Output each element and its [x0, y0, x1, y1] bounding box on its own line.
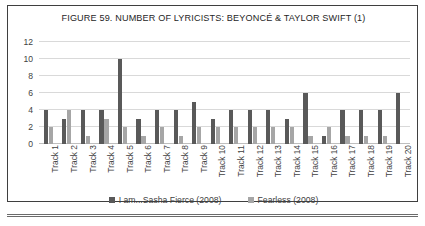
- bar: [229, 110, 233, 144]
- bar-group: [192, 42, 201, 144]
- bar: [197, 127, 201, 144]
- y-axis-tick-label: 10: [23, 55, 33, 64]
- y-axis-tick-label: 8: [28, 72, 33, 81]
- bar-group: [285, 42, 294, 144]
- x-axis-tick-label: Track 8: [181, 145, 189, 173]
- legend-item[interactable]: Fearless (2008): [248, 195, 319, 205]
- chart-title: FIGURE 59. NUMBER OF LYRICISTS: BEYONCÉ …: [8, 13, 419, 23]
- bar-group: [81, 42, 90, 144]
- bar-group: [396, 42, 405, 144]
- legend-swatch-fearless: [248, 197, 254, 203]
- bar-group: [229, 42, 238, 144]
- bar: [62, 119, 66, 145]
- bar: [271, 127, 275, 144]
- bar: [345, 136, 349, 145]
- bar: [216, 127, 220, 144]
- bar-group: [266, 42, 275, 144]
- bar: [340, 110, 344, 144]
- y-axis-tick-labels: 024681012: [8, 42, 36, 144]
- chart-legend: I am...Sasha Fierce (2008)Fearless (2008…: [8, 195, 419, 205]
- x-axis-tick-label: Track 2: [70, 145, 78, 173]
- bar-group: [340, 42, 349, 144]
- y-axis-tick-label: 6: [28, 89, 33, 98]
- x-axis-tick-label: Track 11: [237, 145, 245, 177]
- bar-group: [378, 42, 387, 144]
- x-axis-tick-labels: Track 1Track 2Track 3Track 4Track 5Track…: [39, 145, 410, 193]
- y-axis-tick-label: 2: [28, 123, 33, 132]
- bar-group: [99, 42, 108, 144]
- figure-frame: FIGURE 59. NUMBER OF LYRICISTS: BEYONCÉ …: [7, 5, 418, 202]
- gridline: [39, 109, 410, 110]
- bottom-divider-rule: [7, 214, 418, 217]
- bar-group: [155, 42, 164, 144]
- bar: [248, 110, 252, 144]
- bar: [86, 136, 90, 145]
- bar: [253, 127, 257, 144]
- gridline: [39, 92, 410, 93]
- bar-group: [322, 42, 331, 144]
- bar-group: [359, 42, 368, 144]
- bar: [174, 110, 178, 144]
- plot-area: [39, 42, 410, 144]
- bar: [123, 127, 127, 144]
- bar: [211, 119, 215, 145]
- bar: [179, 136, 183, 145]
- bar: [104, 119, 108, 145]
- bar: [44, 110, 48, 144]
- bar: [49, 127, 53, 144]
- bar: [155, 110, 159, 144]
- x-axis-tick-label: Track 18: [367, 145, 375, 177]
- bar-group: [118, 42, 127, 144]
- legend-label: I am...Sasha Fierce (2008): [119, 195, 222, 205]
- bar-group: [62, 42, 71, 144]
- bar: [285, 119, 289, 145]
- bar: [308, 136, 312, 145]
- bar-group: [44, 42, 53, 144]
- bar: [141, 136, 145, 145]
- bar: [67, 110, 71, 144]
- bar: [303, 93, 307, 144]
- bar: [99, 110, 103, 144]
- x-axis-tick-label: Track 19: [385, 145, 393, 177]
- x-axis-tick-label: Track 20: [404, 145, 412, 177]
- x-axis-tick-label: Track 12: [256, 145, 264, 177]
- bar: [378, 110, 382, 144]
- x-axis-tick-label: Track 1: [51, 145, 59, 173]
- bar: [118, 59, 122, 144]
- x-axis-tick-label: Track 7: [163, 145, 171, 173]
- bar: [234, 127, 238, 144]
- bar: [396, 93, 400, 144]
- x-axis-tick-label: Track 4: [107, 145, 115, 173]
- bar-group: [174, 42, 183, 144]
- x-axis-tick-label: Track 5: [126, 145, 134, 173]
- legend-swatch-sasha-fierce: [109, 197, 115, 203]
- gridline: [39, 41, 410, 42]
- x-axis-tick-label: Track 3: [89, 145, 97, 173]
- legend-item[interactable]: I am...Sasha Fierce (2008): [109, 195, 222, 205]
- bar: [192, 102, 196, 145]
- bar-group: [303, 42, 312, 144]
- gridline: [39, 126, 410, 127]
- x-axis-tick-label: Track 16: [330, 145, 338, 177]
- x-axis-tick-label: Track 9: [200, 145, 208, 173]
- bar: [322, 136, 326, 145]
- gridline: [39, 75, 410, 76]
- x-axis-tick-label: Track 13: [274, 145, 282, 177]
- y-axis-tick-label: 12: [23, 38, 33, 47]
- legend-label: Fearless (2008): [258, 195, 319, 205]
- bar: [160, 127, 164, 144]
- y-axis-tick-label: 0: [28, 140, 33, 149]
- x-axis-tick-label: Track 17: [348, 145, 356, 177]
- bar: [81, 110, 85, 144]
- bar: [290, 127, 294, 144]
- bar: [359, 110, 363, 144]
- x-axis-tick-label: Track 15: [311, 145, 319, 177]
- y-axis-tick-label: 4: [28, 106, 33, 115]
- bar: [136, 119, 140, 145]
- bar-group: [136, 42, 145, 144]
- bar: [383, 136, 387, 145]
- x-axis-tick-label: Track 14: [293, 145, 301, 177]
- x-axis-tick-label: Track 10: [218, 145, 226, 177]
- gridline: [39, 58, 410, 59]
- x-axis-tick-label: Track 6: [144, 145, 152, 173]
